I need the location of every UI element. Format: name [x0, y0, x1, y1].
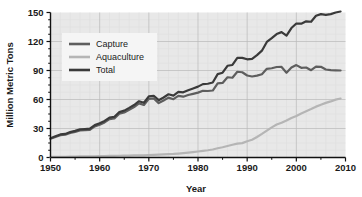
y-axis-label: Million Metric Tons: [4, 42, 15, 127]
y-tick-label: 60: [33, 94, 44, 105]
x-tick-label: 1950: [40, 162, 61, 173]
x-tick-label: 1970: [138, 162, 159, 173]
y-tick-label: 150: [28, 7, 44, 18]
chart-canvas: 1950196019701980199020002010 03060901201…: [0, 0, 362, 197]
x-tick-label: 1960: [89, 162, 110, 173]
x-tick-label: 2000: [286, 162, 307, 173]
legend-label-total: Total: [96, 65, 115, 75]
legend-label-capture: Capture: [96, 39, 128, 49]
x-axis-label: Year: [186, 183, 206, 194]
y-tick-label: 0: [38, 152, 43, 163]
x-tick-label: 1990: [237, 162, 258, 173]
chart-legend: CaptureAquacultureTotal: [62, 33, 157, 81]
x-tick-label: 1980: [187, 162, 208, 173]
y-tick-label: 90: [33, 65, 44, 76]
y-tick-label: 120: [28, 36, 44, 47]
legend-label-aquaculture: Aquaculture: [96, 52, 144, 62]
x-tick-label: 2010: [335, 162, 356, 173]
fisheries-production-chart: 1950196019701980199020002010 03060901201…: [0, 0, 362, 197]
y-tick-label: 30: [33, 123, 44, 134]
